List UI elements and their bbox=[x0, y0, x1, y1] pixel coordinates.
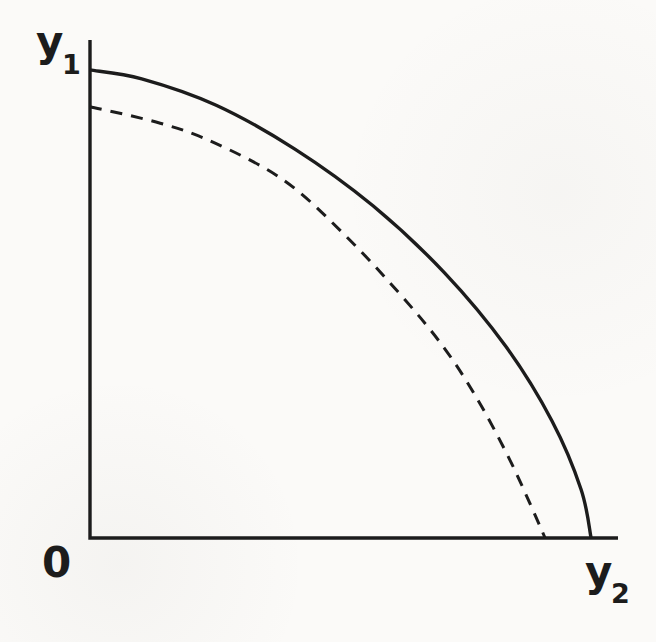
x-axis-label: y bbox=[585, 547, 612, 596]
ppf-figure: y 1 0 y 2 bbox=[0, 0, 656, 642]
y-axis-label: y bbox=[36, 17, 63, 66]
inner-frontier-curve bbox=[90, 107, 545, 538]
outer-frontier-curve bbox=[90, 70, 591, 538]
chart-canvas: y 1 0 y 2 bbox=[0, 0, 656, 642]
y-axis-label-subscript: 1 bbox=[62, 49, 81, 80]
origin-label: 0 bbox=[42, 538, 71, 587]
x-axis-label-subscript: 2 bbox=[611, 578, 630, 609]
axes bbox=[90, 40, 618, 538]
